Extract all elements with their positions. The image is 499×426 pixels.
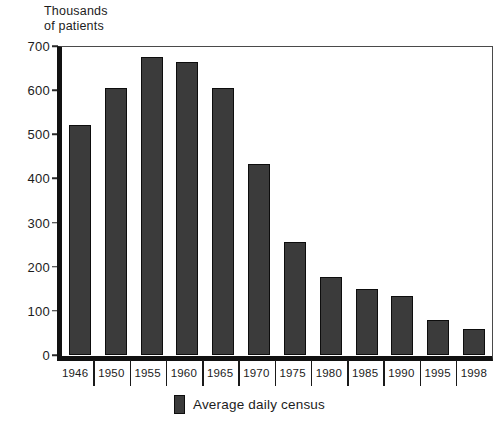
bar-1965 — [212, 88, 234, 355]
x-axis-divider — [456, 360, 458, 386]
bar-1955 — [141, 57, 163, 355]
x-axis-divider — [202, 360, 204, 386]
bar-1946 — [69, 125, 91, 355]
legend-label-average-daily-census: Average daily census — [193, 397, 325, 412]
legend-swatch-average-daily-census — [174, 395, 185, 414]
x-axis-divider — [275, 360, 277, 386]
x-tick-label-1950: 1950 — [93, 360, 129, 386]
x-tick-label-1946: 1946 — [57, 360, 93, 386]
x-axis-divider — [130, 360, 132, 386]
x-tick-label-1985: 1985 — [347, 360, 383, 386]
x-axis-divider — [311, 360, 313, 386]
x-tick-label-1975: 1975 — [275, 360, 311, 386]
x-tick-label-1998: 1998 — [456, 360, 492, 386]
x-axis-divider — [383, 360, 385, 386]
bar-1980 — [320, 277, 342, 355]
x-axis-divider — [420, 360, 422, 386]
x-axis-divider — [166, 360, 168, 386]
bar-chart-figure: Thousands of patients 700600500400300200… — [0, 0, 499, 426]
x-tick-label-1960: 1960 — [166, 360, 202, 386]
x-tick-label-1990: 1990 — [383, 360, 419, 386]
x-axis-divider — [93, 360, 95, 386]
x-tick-label-1965: 1965 — [202, 360, 238, 386]
bar-1985 — [356, 289, 378, 355]
x-tick-label-1955: 1955 — [130, 360, 166, 386]
bar-1950 — [105, 88, 127, 355]
bar-1970 — [248, 164, 270, 355]
bar-1975 — [284, 242, 306, 355]
x-axis-divider — [238, 360, 240, 386]
chart-legend: Average daily census — [0, 395, 499, 414]
y-axis-title: Thousands of patients — [44, 4, 108, 34]
plot-area — [62, 46, 492, 355]
bar-1995 — [427, 320, 449, 355]
x-tick-label-1980: 1980 — [311, 360, 347, 386]
bar-1998 — [463, 329, 485, 355]
bar-1990 — [391, 296, 413, 355]
x-axis-labels: 1946195019551960196519701975198019851990… — [57, 360, 492, 386]
y-axis-tick-marks — [0, 46, 60, 355]
x-tick-label-1995: 1995 — [420, 360, 456, 386]
x-axis-divider — [347, 360, 349, 386]
x-tick-label-1970: 1970 — [238, 360, 274, 386]
bar-1960 — [176, 62, 198, 355]
